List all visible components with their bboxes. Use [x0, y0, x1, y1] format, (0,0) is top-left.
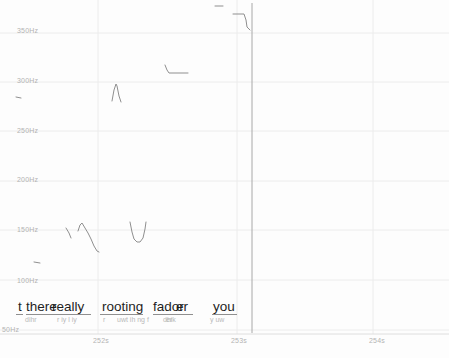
pitch-segment-9[interactable] [34, 262, 40, 263]
freq-tick-label-250: 250Hz [17, 127, 38, 134]
phone-label-1[interactable]: r iy l iy [57, 316, 77, 323]
pitch-segment-7[interactable] [78, 223, 99, 252]
phone-label-0[interactable]: dihr [25, 316, 37, 323]
pitch-editor-canvas: 350Hz300Hz250Hz200Hz150Hz100Hz50Hz252s25… [0, 0, 449, 358]
word-label-3[interactable]: rooting [102, 299, 143, 314]
time-tick-label-254: 254s [369, 337, 385, 344]
word-underline-0[interactable] [16, 314, 23, 315]
phone-label-6[interactable]: y uw [210, 316, 224, 323]
pitch-segment-4[interactable] [112, 84, 121, 102]
freq-tick-label-100: 100Hz [17, 277, 38, 284]
freq-tick-label-300: 300Hz [17, 77, 38, 84]
word-underline-3[interactable] [153, 314, 193, 315]
freq-tick-label-150: 150Hz [17, 226, 38, 233]
word-label-0[interactable]: t [18, 299, 22, 314]
pitch-segment-3[interactable] [165, 65, 188, 73]
time-tick-label-252: 252s [93, 337, 109, 344]
freq-tick-label-200: 200Hz [17, 176, 38, 183]
word-label-6[interactable]: you [213, 299, 235, 314]
word-underline-2[interactable] [100, 314, 143, 315]
phone-label-3[interactable]: uwt ih ng f [117, 316, 149, 323]
word-label-5[interactable]: er [176, 299, 188, 314]
pitch-segment-5[interactable] [16, 97, 21, 98]
pitch-segment-2[interactable] [233, 14, 250, 30]
pitch-segment-8[interactable] [130, 222, 146, 242]
phone-label-5[interactable]: er [166, 316, 172, 323]
word-label-2[interactable]: really [52, 299, 84, 314]
word-underline-1[interactable] [26, 314, 91, 315]
phone-label-2[interactable]: r [103, 316, 105, 323]
word-underline-4[interactable] [212, 314, 237, 315]
time-tick-label-253: 253s [231, 337, 247, 344]
freq-tick-label-50: 50Hz [2, 326, 19, 333]
freq-tick-label-350: 350Hz [17, 27, 38, 34]
